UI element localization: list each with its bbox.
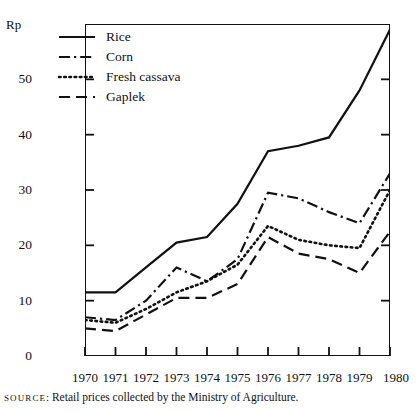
y-axis-tick-label: 50: [6, 71, 32, 87]
price-trend-figure: Rp 01020304050 RiceCornFresh cassavaGapl…: [0, 0, 418, 411]
y-axis-tick-label: 20: [6, 237, 32, 253]
legend-line-swatch: [57, 50, 97, 64]
y-axis-tick-label: 40: [6, 127, 32, 143]
y-axis-tick-labels: 01020304050: [2, 0, 32, 411]
x-axis-tick-label: 1972: [133, 370, 159, 386]
legend-line-swatch: [57, 90, 97, 104]
y-axis-tick-label: 10: [6, 293, 32, 309]
x-axis-tick-label: 1976: [255, 370, 281, 386]
x-axis-tick-label: 1973: [164, 370, 190, 386]
y-axis-tick-label: 0: [6, 348, 32, 364]
y-axis-tick-label: 30: [6, 182, 32, 198]
source-note: SOURCE: Retail prices collected by the M…: [4, 391, 298, 403]
source-note-text: Retail prices collected by the Ministry …: [52, 391, 299, 403]
x-axis-tick-label: 1977: [286, 370, 312, 386]
legend-item: Gaplek: [57, 87, 227, 107]
x-axis-tick-label: 1980: [383, 370, 409, 386]
legend-line-swatch: [57, 70, 97, 84]
legend-label: Fresh cassava: [97, 69, 181, 85]
legend-line-swatch: [57, 30, 97, 44]
chart-legend: RiceCornFresh cassavaGaplek: [57, 27, 227, 107]
x-axis-tick-label: 1978: [316, 370, 342, 386]
x-axis-tick-label: 1970: [72, 370, 98, 386]
legend-item: Rice: [57, 27, 227, 47]
x-axis-tick-label: 1975: [225, 370, 251, 386]
legend-label: Corn: [97, 49, 133, 65]
source-note-prefix: SOURCE: [4, 393, 46, 403]
legend-item: Corn: [57, 47, 227, 67]
x-axis-tick-label: 1974: [194, 370, 220, 386]
legend-label: Gaplek: [97, 89, 145, 105]
legend-item: Fresh cassava: [57, 67, 227, 87]
x-axis-tick-label: 1971: [103, 370, 129, 386]
x-axis-tick-label: 1979: [347, 370, 373, 386]
legend-label: Rice: [97, 29, 131, 45]
